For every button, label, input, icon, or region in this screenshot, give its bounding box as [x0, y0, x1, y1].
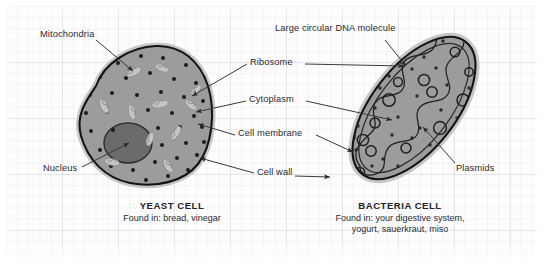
label-mitochondria: Mitochondria: [40, 30, 94, 40]
bacteria-cell-caption-found-in-line2: yogurt, sauerkraut, miso: [300, 224, 500, 235]
label-cell-membrane: Cell membrane: [238, 129, 302, 139]
label-large-circular-dna: Large circular DNA molecule: [275, 24, 396, 34]
label-nucleus: Nucleus: [43, 164, 77, 174]
bacteria-cell-caption-title: BACTERIA CELL: [300, 200, 500, 211]
bacteria-cell-caption-found-in-line1: Found in: your digestive system,: [300, 213, 500, 224]
yeast-cell-figure: [79, 46, 212, 185]
leader-ribosome-bacteria: [305, 64, 404, 66]
label-ribosome: Ribosome: [250, 58, 293, 68]
label-plasmids: Plasmids: [456, 164, 495, 174]
yeast-cell-caption-title: YEAST CELL: [92, 200, 252, 211]
label-cytoplasm: Cytoplasm: [249, 95, 294, 105]
cell-comparison-diagram: Mitochondria Ribosome Cytoplasm Cell mem…: [0, 0, 544, 265]
leader-cellwall-bacteria: [295, 176, 330, 177]
label-cell-wall: Cell wall: [257, 168, 293, 178]
leader-cellmembrane-bacteria: [316, 135, 353, 152]
leader-cellwall-yeast: [200, 158, 254, 173]
yeast-cell-caption-found-in: Found in: bread, vinegar: [92, 213, 252, 224]
